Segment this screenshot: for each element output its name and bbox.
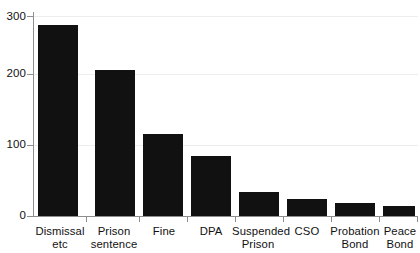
y-axis-line — [33, 12, 34, 217]
x-tick-mark-3 — [187, 216, 188, 222]
x-label-probation-bond: Probation Bond — [329, 225, 381, 251]
x-label-suspended-prison: Suspended Prison — [232, 225, 284, 251]
x-tick-mark-6 — [331, 216, 332, 222]
y-tick-label-0: 0 — [0, 210, 26, 222]
x-axis-line — [33, 216, 418, 217]
x-tick-mark-2 — [139, 216, 140, 222]
gridline-100 — [33, 145, 418, 146]
x-label-cso: CSO — [284, 225, 330, 238]
x-label-dismissal-etc: Dismissal etc — [34, 225, 86, 251]
bar-suspended-prison — [239, 192, 279, 216]
bar-chart: 300 200 100 0 Dismissal etc Prison sente… — [0, 0, 420, 253]
y-tick-label-200: 200 — [0, 68, 26, 80]
bar-probation-bond — [335, 203, 375, 216]
bar-prison-sentence — [95, 70, 135, 216]
x-tick-mark-5 — [283, 216, 284, 222]
x-tick-mark-4 — [235, 216, 236, 222]
bar-cso — [287, 199, 327, 216]
x-tick-mark-1 — [86, 216, 87, 222]
bar-dpa — [191, 156, 231, 216]
gridline-200 — [33, 74, 418, 75]
y-tick-label-100: 100 — [0, 139, 26, 151]
x-label-peace-bond: Peace Bond — [380, 225, 420, 251]
x-label-dpa: DPA — [188, 225, 234, 238]
bar-fine — [143, 134, 183, 216]
gridline-300 — [33, 16, 418, 17]
bar-dismissal-etc — [38, 25, 78, 216]
bar-peace-bond — [383, 206, 415, 216]
x-tick-mark-8 — [417, 216, 418, 222]
x-tick-mark-7 — [379, 216, 380, 222]
x-label-prison-sentence: Prison sentence — [88, 225, 140, 251]
x-label-fine: Fine — [141, 225, 187, 238]
y-tick-label-300: 300 — [0, 11, 26, 23]
